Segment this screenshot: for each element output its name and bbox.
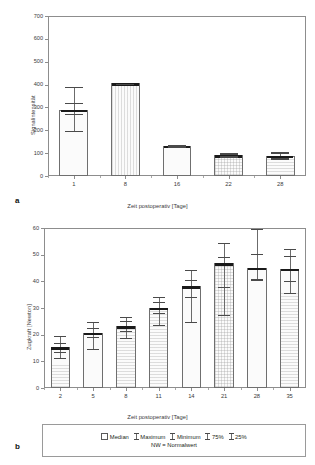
- whisker-cap-q25: [218, 287, 230, 288]
- whisker-cap-min: [120, 338, 132, 339]
- x-minor-tick-mark: [254, 176, 255, 178]
- y-tick-label: 300: [18, 104, 43, 110]
- whisker-cap-median: [182, 286, 200, 288]
- whisker-cap-median: [51, 347, 69, 349]
- x-tick-label: 8: [111, 393, 141, 399]
- y-tick-mark: [41, 255, 44, 256]
- bar: [163, 146, 192, 176]
- panel-letter-a: a: [15, 196, 19, 205]
- whisker-cap-max: [65, 87, 83, 88]
- x-tick-label: 21: [209, 393, 239, 399]
- y-tick-label: 600: [18, 35, 43, 41]
- whisker-cap-median: [117, 326, 135, 328]
- whisker-cap-max: [120, 317, 132, 318]
- whisker-cap-q75: [284, 256, 296, 257]
- whisker-cap-q75: [185, 280, 197, 281]
- legend-label-maximum: Maximum: [140, 434, 165, 440]
- whisker-cap-q75: [218, 257, 230, 258]
- whisker-cap-q75: [120, 321, 132, 322]
- y-tick-mark: [41, 361, 44, 362]
- y-tick-label: 700: [18, 13, 43, 19]
- x-tick-mark: [229, 176, 230, 179]
- y-tick-label: 400: [18, 81, 43, 87]
- x-minor-tick-mark: [241, 388, 242, 390]
- whisker-cap-q75: [54, 343, 66, 344]
- x-tick-label: 14: [176, 393, 206, 399]
- whisker-cap-min: [116, 84, 134, 85]
- y-tick-mark: [41, 308, 44, 309]
- whisker-cap-q25: [284, 281, 296, 282]
- x-tick-label: 28: [265, 181, 295, 187]
- x-tick-mark: [60, 388, 61, 391]
- whisker-cap-median: [84, 333, 102, 335]
- whisker-line: [224, 243, 225, 316]
- whisker-cap-median: [61, 110, 88, 112]
- y-tick-mark: [45, 153, 48, 154]
- y-tick-label: 30: [14, 305, 39, 311]
- whisker-cap-q25: [120, 331, 132, 332]
- x-tick-mark: [74, 176, 75, 179]
- legend-item-25: 25%: [229, 433, 247, 440]
- y-tick-label: 10: [14, 358, 39, 364]
- x-tick-mark: [125, 176, 126, 179]
- whisker-cap-min: [153, 325, 165, 326]
- legend-item-75: 75%: [205, 433, 223, 440]
- whisker-cap-min: [168, 147, 186, 148]
- x-tick-mark: [159, 388, 160, 391]
- whisker-cap-q25: [65, 114, 83, 115]
- legend-note: NW = Normalwert: [151, 442, 197, 448]
- x-tick-mark: [191, 388, 192, 391]
- x-tick-mark: [257, 388, 258, 391]
- x-tick-mark: [280, 176, 281, 179]
- y-tick-label: 0: [18, 173, 43, 179]
- x-tick-label: 28: [242, 393, 272, 399]
- chart-panel-b: Zugkraft [Newton] Zeit postoperativ [Tag…: [0, 218, 315, 465]
- x-tick-mark: [290, 388, 291, 391]
- x-minor-tick-mark: [208, 388, 209, 390]
- legend-label-25: 25%: [235, 434, 247, 440]
- x-axis-label-a: Zeit postoperativ [Tage]: [0, 203, 315, 209]
- y-tick-label: 500: [18, 58, 43, 64]
- legend: Median Maximum Minimum 75% 25%: [42, 424, 306, 457]
- y-tick-mark: [41, 335, 44, 336]
- legend-item-maximum: Maximum: [134, 433, 166, 440]
- whisker-cap-min: [87, 349, 99, 350]
- whisker-cap-min: [220, 157, 238, 158]
- whisker-cap-max: [218, 243, 230, 244]
- whisker-cap-min: [284, 293, 296, 294]
- x-tick-mark: [224, 388, 225, 391]
- x-minor-tick-mark: [203, 176, 204, 178]
- x-tick-label: 35: [275, 393, 305, 399]
- chart-panel-a: Signalintensität Zeit postoperativ [Tage…: [0, 0, 315, 212]
- x-tick-mark: [126, 388, 127, 391]
- y-tick-label: 200: [18, 127, 43, 133]
- x-tick-label: 1: [59, 181, 89, 187]
- x-minor-tick-mark: [175, 388, 176, 390]
- y-tick-mark: [45, 62, 48, 63]
- x-tick-mark: [177, 176, 178, 179]
- y-tick-label: 40: [14, 278, 39, 284]
- legend-label-median: Median: [110, 434, 129, 440]
- whisker-cap-median: [215, 263, 233, 265]
- whisker-cap-median: [248, 268, 266, 270]
- x-tick-label: 11: [144, 393, 174, 399]
- whisker-cap-median: [150, 308, 168, 310]
- median-box-icon: [101, 433, 108, 440]
- figure-container: Signalintensität Zeit postoperativ [Tage…: [0, 0, 315, 465]
- y-tick-label: 20: [14, 331, 39, 337]
- y-tick-label: 0: [14, 385, 39, 391]
- legend-item-median: Median: [101, 433, 129, 440]
- legend-items-row: Median Maximum Minimum 75% 25%: [101, 433, 246, 440]
- whisker-cap-max: [153, 297, 165, 298]
- whisker-cap-min: [271, 159, 289, 160]
- whisker-cap-min: [185, 322, 197, 323]
- x-minor-tick-mark: [100, 176, 101, 178]
- whisker-cap-max: [185, 270, 197, 271]
- x-minor-tick-mark: [273, 388, 274, 390]
- legend-label-minimum: Minimum: [177, 434, 201, 440]
- whisker-cap-q75: [271, 153, 289, 154]
- y-tick-mark: [45, 85, 48, 86]
- y-tick-mark: [45, 39, 48, 40]
- x-tick-mark: [93, 388, 94, 391]
- y-tick-label: 60: [14, 225, 39, 231]
